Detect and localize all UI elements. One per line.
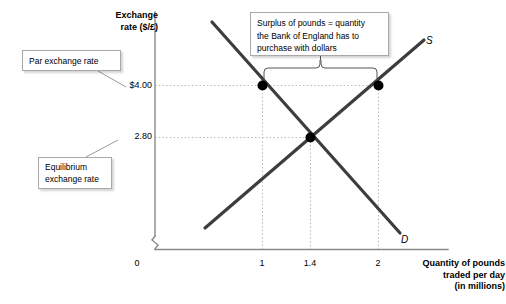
y-axis-title: Exchange rate ($/£) [78, 10, 158, 33]
supply-curve-label: S [426, 35, 433, 46]
chart-figure: Exchange rate ($/£) Quantity of pounds t… [0, 0, 506, 304]
callout-surplus-of-pounds: Surplus of pounds = quantity the Bank of… [250, 12, 389, 56]
x-axis-title: Quantity of pounds traded per day (in mi… [415, 258, 505, 293]
surplus-brace [264, 56, 377, 85]
x-tick-label-1point4: 1.4 [298, 258, 322, 268]
y-tick-label-equilibrium: 2.80 [104, 131, 152, 141]
demand-curve-label: D [401, 234, 408, 245]
marker-demand-at-par [258, 81, 268, 91]
x-tick-label-1: 1 [252, 258, 272, 268]
marker-supply-at-par [374, 81, 384, 91]
y-axis-break-icon [152, 236, 158, 249]
marker-equilibrium [306, 133, 316, 143]
y-tick-label-par: $4.00 [104, 80, 152, 90]
callout-par-exchange-rate: Par exchange rate [22, 50, 121, 71]
gridlines [155, 86, 379, 251]
callout-equilibrium-exchange-rate: Equilibrium exchange rate [38, 157, 112, 189]
leader-equilibrium [86, 140, 118, 157]
x-tick-label-0: 0 [127, 258, 147, 268]
x-tick-label-2: 2 [368, 258, 388, 268]
